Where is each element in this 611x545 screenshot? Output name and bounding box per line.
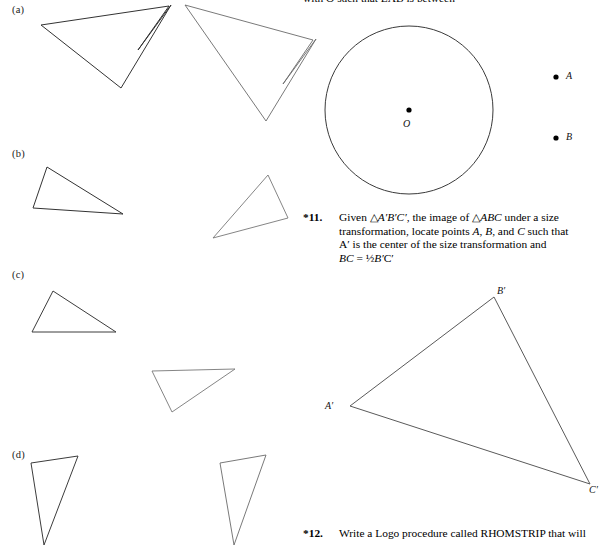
problem-11-line-4: BC = ½B′C′ xyxy=(339,252,394,264)
triangle-d-right-outline xyxy=(220,455,266,545)
problem-12-line-1: Write a Logo procedure called RHOMSTRIP … xyxy=(339,527,586,539)
problem-11-line-1: Given △A′B′C′, the image of △ABC under a… xyxy=(339,211,559,223)
label-point-A: A xyxy=(566,70,572,81)
part-label-c: (c) xyxy=(12,269,24,280)
arrow-a-right-outline xyxy=(185,5,316,121)
triangle-A-prime-B-prime-C-prime-outline xyxy=(350,297,590,484)
label-point-O: O xyxy=(403,118,410,129)
arrow-a-left-shape xyxy=(41,5,171,88)
part-label-a: (a) xyxy=(12,4,24,15)
triangle-b-left-outline xyxy=(33,167,123,214)
problem-11-line-2: transformation, locate points A, B, and … xyxy=(339,225,568,237)
triangle-b-right-outline xyxy=(213,175,288,238)
point-dot-B xyxy=(553,135,558,140)
arrow-a-left-outline xyxy=(41,5,171,88)
triangle-c-left-outline xyxy=(32,291,116,332)
point-dot-A xyxy=(553,74,558,79)
problem-12-number: *12. xyxy=(303,527,323,541)
part-label-d: (d) xyxy=(12,449,25,460)
arrow-a-right-shape xyxy=(185,5,316,121)
triangle-d-left-outline xyxy=(31,456,78,545)
label-point-A-prime: A′ xyxy=(325,400,333,411)
problem-11-line-3: A′ is the center of the size transformat… xyxy=(339,238,546,250)
center-dot-O xyxy=(406,107,411,112)
problem-11-body: Given △A′B′C′, the image of △ABC under a… xyxy=(339,211,605,265)
problem-11-number: *11. xyxy=(303,211,322,225)
part-label-b: (b) xyxy=(12,148,25,159)
problem-11: *11. Given △A′B′C′, the image of △ABC un… xyxy=(303,211,605,265)
label-point-C-prime: C′ xyxy=(589,484,598,495)
problem-12: *12. Write a Logo procedure called RHOMS… xyxy=(303,527,605,541)
textbook-page: with O such that LAB is between xyxy=(0,0,611,545)
label-point-B-prime: B′ xyxy=(497,285,505,296)
problem-12-body: Write a Logo procedure called RHOMSTRIP … xyxy=(339,527,605,541)
figures-layer xyxy=(0,0,611,545)
triangle-c-right-outline xyxy=(152,369,235,412)
cropped-top-text-line: with O such that LAB is between xyxy=(303,0,603,6)
label-point-B: B xyxy=(566,131,572,142)
circle-outline xyxy=(325,26,493,194)
